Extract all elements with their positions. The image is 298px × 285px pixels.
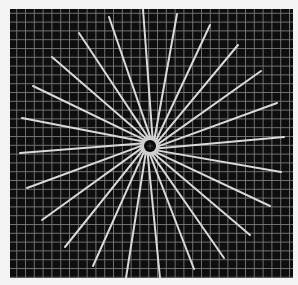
spoke-pattern-figure [0, 0, 298, 285]
center-target [140, 136, 160, 156]
